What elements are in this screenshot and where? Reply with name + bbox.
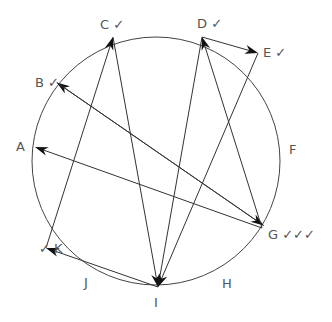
label-H: H (222, 277, 232, 290)
arrow-C-I (113, 37, 157, 279)
label-C: C ✓ (100, 18, 124, 31)
label-D: D ✓ (197, 17, 222, 30)
arrow-E-I (161, 53, 258, 280)
arrow-I-K (54, 251, 158, 287)
circle (32, 37, 280, 285)
label-G: G ✓✓✓ (268, 228, 315, 241)
label-E: E ✓ (263, 46, 286, 59)
label-K: ✓ K (39, 242, 63, 255)
arrow-G-A (43, 150, 262, 228)
label-J: J (84, 276, 88, 289)
arrow-I-D (158, 37, 202, 287)
arrowhead-icon (250, 214, 263, 225)
label-F: F (289, 143, 296, 156)
label-B: B ✓ (35, 76, 59, 89)
label-A: A (16, 140, 25, 153)
arrow-B-G (57, 83, 257, 221)
arrow-G-D (204, 45, 262, 228)
label-I: I (154, 296, 158, 309)
